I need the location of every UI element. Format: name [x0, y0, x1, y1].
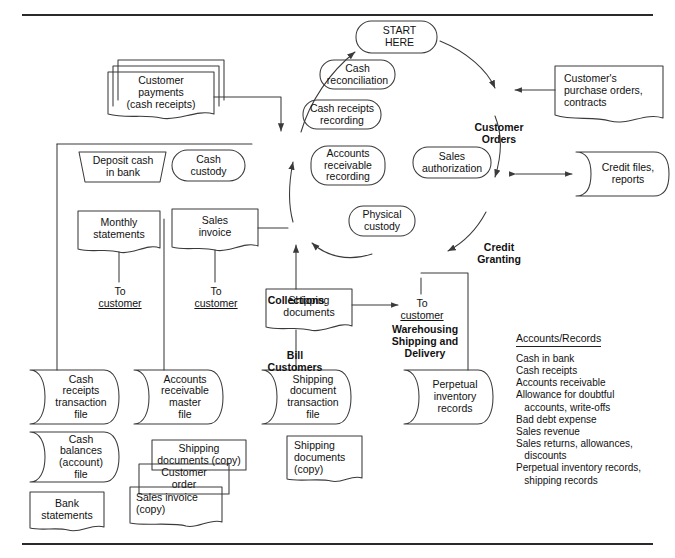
file-credit-files-reports[interactable]: Credit files, reports	[592, 154, 664, 194]
node-start-here[interactable]: START HERE	[356, 21, 443, 53]
to-label: To	[394, 297, 450, 309]
customer-label: customer	[188, 297, 244, 309]
arrow-start-to-customer-orders	[440, 41, 495, 88]
bubble-physical-custody[interactable]: Physical custody	[349, 206, 415, 236]
accounts-records-item: Bad debt expense	[516, 414, 668, 426]
accounts-records-heading: Accounts/Records	[516, 332, 601, 347]
doc-customers-purchase-orders[interactable]: Customer's purchase orders, contracts	[558, 68, 668, 114]
doc-monthly-statements[interactable]: Monthly statements	[78, 212, 160, 246]
file-perpetual-inventory-records[interactable]: Perpetual inventory records	[419, 375, 491, 419]
arrow-bill-customers-to-collections	[290, 162, 293, 222]
accounts-records-legend: Accounts/Records Cash in bank Cash recei…	[516, 332, 668, 487]
doc-customer-payments[interactable]: Customer payments (cash receipts)	[108, 74, 214, 112]
file-shipping-document-transaction-file[interactable]: Shipping document transaction file	[277, 371, 349, 423]
accounts-records-item: Accounts receivable	[516, 377, 668, 389]
file-cash-balances-account-file[interactable]: Cash balances (account) file	[45, 433, 117, 481]
arrow-warehousing-to-bill-customers	[312, 243, 372, 258]
node-warehousing-shipping-delivery[interactable]: Warehousing Shipping and Delivery	[376, 321, 474, 363]
bubble-accounts-receivable-recording[interactable]: Accounts receivable recording	[311, 146, 385, 185]
terminator-to-customer-invoice: To customer	[188, 285, 244, 309]
node-bill-customers[interactable]: Bill Customers	[253, 348, 337, 376]
flowchart-canvas: START HERE Customer Orders Credit Granti…	[0, 0, 675, 558]
accounts-records-item: Sales returns, allowances, discounts	[516, 438, 668, 462]
manual-deposit-cash-in-bank[interactable]: Deposit cash in bank	[82, 153, 164, 181]
terminator-to-customer-statements: To customer	[92, 285, 148, 309]
bubble-cash-receipts-recording[interactable]: Cash receipts recording	[303, 100, 381, 129]
accounts-records-item: Perpetual inventory records, shipping re…	[516, 462, 668, 486]
node-collections[interactable]: Collections	[249, 293, 343, 309]
to-label: To	[188, 285, 244, 297]
doc-shipping-documents-copy-2[interactable]: Shipping documents (copy)	[290, 438, 368, 478]
to-label: To	[92, 285, 148, 297]
customer-label: customer	[92, 297, 148, 309]
accounts-records-item: Cash receipts	[516, 365, 668, 377]
node-credit-granting[interactable]: Credit Granting	[455, 240, 543, 268]
bubble-cash-custody[interactable]: Cash custody	[172, 150, 245, 181]
terminator-to-customer-shipping: To customer	[394, 297, 450, 321]
file-accounts-receivable-master-file[interactable]: Accounts receivable master file	[149, 371, 221, 423]
accounts-records-item: Cash in bank	[516, 353, 668, 365]
customer-label: customer	[394, 309, 450, 321]
accounts-records-list: Cash in bank Cash receipts Accounts rece…	[516, 353, 668, 487]
file-cash-receipts-transaction-file[interactable]: Cash receipts transaction file	[45, 371, 117, 423]
node-customer-orders[interactable]: Customer Orders	[455, 120, 543, 148]
bubble-sales-authorization[interactable]: Sales authorization	[413, 147, 491, 178]
doc-bank-statements[interactable]: Bank statements	[30, 494, 104, 526]
accounts-records-item: Sales revenue	[516, 426, 668, 438]
doc-sales-invoice-copy[interactable]: Sales invoice (copy)	[132, 489, 224, 519]
connector-payments-to-collections	[214, 97, 281, 131]
accounts-records-item: Allowance for doubtful accounts, write-o…	[516, 389, 668, 413]
bubble-cash-reconciliation[interactable]: Cash reconciliation	[320, 60, 395, 89]
doc-sales-invoice[interactable]: Sales invoice	[172, 210, 258, 244]
